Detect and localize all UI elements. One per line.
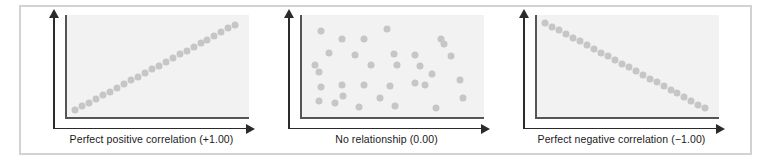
data-point <box>127 77 134 84</box>
data-point <box>618 60 625 67</box>
data-point <box>448 53 455 60</box>
y-axis-arrow-icon <box>284 9 294 18</box>
data-point <box>625 64 632 71</box>
data-point <box>556 27 563 34</box>
x-axis-line <box>288 128 484 130</box>
panel-perfect-negative: Perfect negative correlation (−1.00) <box>505 7 738 157</box>
data-point <box>660 83 667 90</box>
data-point <box>197 40 204 47</box>
data-point <box>392 102 399 109</box>
figure-frame: Perfect positive correlation (+1.00) No … <box>19 5 752 155</box>
data-point <box>190 43 197 50</box>
data-point <box>176 51 183 58</box>
data-point <box>326 49 333 56</box>
data-point <box>113 84 120 91</box>
data-point <box>361 35 368 42</box>
data-point <box>570 34 577 41</box>
x-axis-line <box>53 128 249 130</box>
data-point <box>674 90 681 97</box>
data-point <box>141 70 148 77</box>
data-point <box>120 81 127 88</box>
data-point <box>368 61 375 68</box>
data-point <box>338 35 345 42</box>
data-point <box>577 38 584 45</box>
y-axis-arrow-icon <box>519 9 529 18</box>
data-point <box>549 23 556 30</box>
panel-perfect-positive: Perfect positive correlation (+1.00) <box>35 7 268 157</box>
panel-caption-perfect-positive: Perfect positive correlation (+1.00) <box>35 133 268 145</box>
data-point <box>183 47 190 54</box>
data-point <box>361 82 368 89</box>
data-point <box>416 62 423 69</box>
data-point <box>352 52 359 59</box>
data-point <box>681 94 688 101</box>
data-point <box>204 36 211 43</box>
data-point <box>411 80 418 87</box>
data-point <box>667 86 674 93</box>
data-point <box>432 105 439 112</box>
data-point <box>604 53 611 60</box>
data-point <box>695 101 702 108</box>
panel-container: Perfect positive correlation (+1.00) No … <box>21 7 754 157</box>
data-point <box>169 55 176 62</box>
x-axis-line <box>523 128 719 130</box>
data-point <box>639 71 646 78</box>
x-axis-arrow-icon <box>716 124 725 134</box>
data-point <box>317 83 324 90</box>
data-point <box>86 99 93 106</box>
data-point <box>632 68 639 75</box>
data-point <box>394 61 401 68</box>
panel-caption-perfect-negative: Perfect negative correlation (−1.00) <box>505 133 738 145</box>
data-point <box>312 61 319 68</box>
y-axis-arrow-icon <box>49 9 59 18</box>
data-point <box>583 42 590 49</box>
data-point <box>331 99 338 106</box>
data-point <box>134 73 141 80</box>
data-point <box>232 21 239 28</box>
data-point <box>597 49 604 56</box>
data-point <box>225 25 232 32</box>
data-point <box>107 88 114 95</box>
data-point <box>563 30 570 37</box>
data-point <box>688 97 695 104</box>
data-point <box>422 82 429 89</box>
plot-area-no-relationship <box>300 15 484 119</box>
y-axis-line <box>53 15 55 129</box>
data-point <box>376 95 383 102</box>
data-point <box>355 104 362 111</box>
data-point <box>590 45 597 52</box>
data-point <box>611 56 618 63</box>
data-point <box>100 92 107 99</box>
data-point <box>441 41 448 48</box>
x-axis-arrow-icon <box>246 124 255 134</box>
data-point <box>338 82 345 89</box>
data-point <box>460 95 467 102</box>
data-point <box>390 51 397 58</box>
data-point <box>653 79 660 86</box>
y-axis-line <box>288 15 290 129</box>
data-point <box>72 107 79 114</box>
data-point <box>211 32 218 39</box>
y-axis-line <box>523 15 525 129</box>
data-point <box>387 83 394 90</box>
data-point <box>646 75 653 82</box>
data-point <box>702 105 709 112</box>
data-point <box>542 19 549 26</box>
plot-area-perfect-negative <box>535 15 719 119</box>
data-point <box>456 77 463 84</box>
data-point <box>315 97 322 104</box>
data-point <box>155 62 162 69</box>
x-axis-arrow-icon <box>481 124 490 134</box>
data-point <box>317 28 324 35</box>
data-point <box>411 52 418 59</box>
data-point <box>383 26 390 33</box>
data-point <box>315 69 322 76</box>
data-point <box>340 93 347 100</box>
data-point <box>429 70 436 77</box>
data-point <box>218 29 225 36</box>
data-point <box>79 103 86 110</box>
plot-area-perfect-positive <box>65 15 249 119</box>
data-point <box>93 96 100 103</box>
panel-caption-no-relationship: No relationship (0.00) <box>270 133 503 145</box>
panel-no-relationship: No relationship (0.00) <box>270 7 503 157</box>
